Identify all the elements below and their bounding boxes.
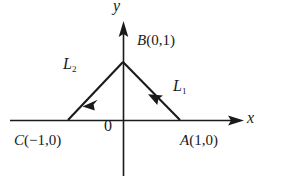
diagram-svg — [0, 0, 285, 182]
point-a-letter: A — [180, 132, 189, 148]
figure-canvas: y x 0 B(0,1) C(−1,0) A(1,0) L1 L2 — [0, 0, 285, 182]
segment-l1-line — [123, 62, 180, 120]
point-c-coords: (−1,0) — [24, 132, 61, 148]
segment-l2-subscript: 2 — [72, 64, 77, 74]
segment-l1-letter: L — [173, 77, 182, 94]
x-axis-label: x — [247, 110, 254, 126]
point-b-letter: B — [137, 32, 146, 48]
segment-label-l1: L1 — [173, 78, 186, 94]
point-b-coords: (0,1) — [146, 32, 175, 48]
point-c-letter: C — [14, 132, 24, 148]
point-label-c: C(−1,0) — [14, 133, 61, 148]
point-label-b: B(0,1) — [137, 33, 175, 48]
origin-label: 0 — [104, 118, 112, 134]
point-a-coords: (1,0) — [189, 132, 218, 148]
segment-l1-subscript: 1 — [182, 86, 187, 96]
segment-l2-letter: L — [63, 55, 72, 72]
y-axis-label: y — [113, 0, 120, 14]
segment-label-l2: L2 — [63, 56, 76, 72]
point-label-a: A(1,0) — [180, 133, 218, 148]
